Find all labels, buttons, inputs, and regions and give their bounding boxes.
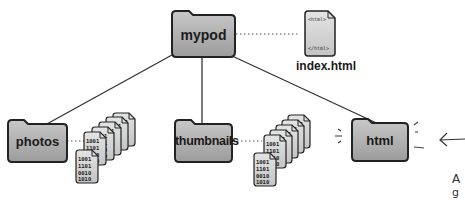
folder-mypod-label: mypod (172, 27, 235, 43)
folder-thumbnails-label: thumbnails (175, 134, 232, 148)
annotation-text-line2: g (452, 186, 459, 199)
annotation-text-line1: A (452, 172, 460, 186)
svg-text:</html>: </html> (308, 45, 329, 51)
connector-photos (45, 55, 172, 125)
left-arrow-icon (440, 133, 465, 146)
folder-photos[interactable]: photos (8, 124, 67, 162)
folder-photos-label: photos (8, 134, 67, 149)
svg-text:<html>: <html> (308, 16, 326, 22)
photos-file-stack-icon (76, 113, 135, 183)
thumbnails-file-stack-icon (254, 115, 310, 186)
folder-html[interactable]: html (352, 123, 408, 161)
folder-thumbnails[interactable]: thumbnails (175, 124, 232, 162)
index-html-file-icon: <html> </html> (305, 11, 335, 56)
index-html-label: index.html (296, 59, 356, 73)
folder-mypod[interactable]: mypod (172, 15, 235, 57)
folder-html-label: html (352, 133, 408, 148)
